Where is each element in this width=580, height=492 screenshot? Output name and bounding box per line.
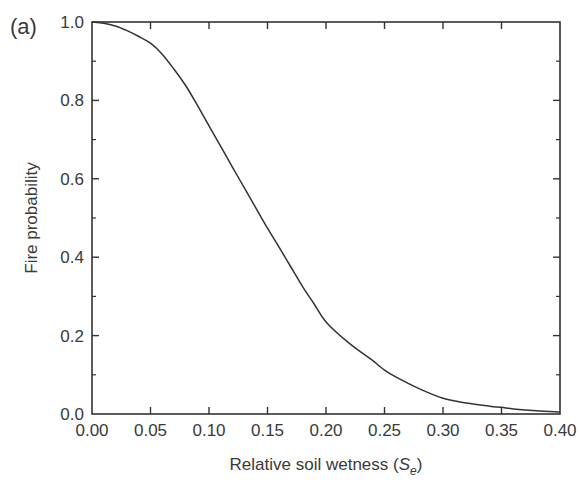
x-tick-label: 0.20 <box>309 421 342 440</box>
y-axis-ticks <box>92 61 560 375</box>
x-axis-label-symbol: S <box>399 455 411 474</box>
x-tick-label: 0.25 <box>368 421 401 440</box>
x-tick-label: 0.30 <box>426 421 459 440</box>
x-axis-label: Relative soil wetness (Se) <box>230 455 423 478</box>
x-axis-ticks <box>151 22 502 414</box>
plot-area: 0.000.050.100.150.200.250.300.350.40 0.0… <box>60 13 576 440</box>
x-axis-label-text: Relative soil wetness ( <box>230 455 399 474</box>
y-tick-label: 0.6 <box>60 170 84 189</box>
x-tick-label: 0.40 <box>543 421 576 440</box>
x-tick-label: 0.05 <box>134 421 167 440</box>
x-axis-label-close: ) <box>417 455 423 474</box>
fire-probability-curve <box>92 22 560 412</box>
x-tick-label: 0.35 <box>485 421 518 440</box>
y-axis-tick-labels: 0.00.20.40.60.81.0 <box>60 13 84 424</box>
y-tick-label: 0.8 <box>60 91 84 110</box>
y-tick-label: 0.0 <box>60 405 84 424</box>
y-tick-label: 0.2 <box>60 327 84 346</box>
plot-frame <box>92 22 560 414</box>
fire-probability-chart: (a) 0.000.050.100.150.200.250.300.350.40… <box>0 0 580 492</box>
x-tick-label: 0.10 <box>192 421 225 440</box>
y-tick-label: 1.0 <box>60 13 84 32</box>
y-tick-label: 0.4 <box>60 248 84 267</box>
panel-label: (a) <box>10 14 37 39</box>
x-axis-tick-labels: 0.000.050.100.150.200.250.300.350.40 <box>75 421 576 440</box>
x-tick-label: 0.15 <box>251 421 284 440</box>
y-axis-label: Fire probability <box>22 162 41 274</box>
